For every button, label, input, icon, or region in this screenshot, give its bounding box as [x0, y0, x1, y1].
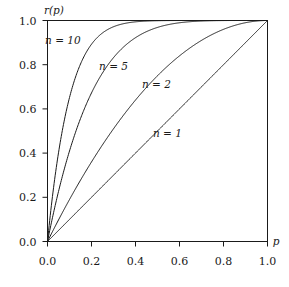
x-axis-label: p — [273, 235, 280, 247]
x-tick-label: 1.0 — [259, 255, 277, 268]
y-axis-label: r(p) — [44, 4, 64, 16]
curve-label-n-2: n = 2 — [142, 78, 171, 90]
x-tick-label: 0.8 — [215, 255, 233, 268]
curve-label-n-10: n = 10 — [45, 34, 81, 46]
y-tick-label: 0.0 — [19, 236, 37, 249]
y-tick-label: 1.0 — [19, 15, 37, 28]
x-tick-label: 0.6 — [171, 255, 189, 268]
curve-label-n-5: n = 5 — [99, 60, 128, 72]
curve-label-n-1: n = 1 — [153, 127, 182, 139]
y-tick-label: 0.6 — [19, 103, 37, 116]
y-tick-label: 0.8 — [19, 59, 37, 72]
y-tick-label: 0.4 — [19, 147, 37, 160]
chart-figure: 0.00.20.40.60.81.0 0.00.20.40.60.81.0 n … — [0, 0, 289, 287]
x-tick-label: 0.2 — [83, 255, 101, 268]
line-chart: 0.00.20.40.60.81.0 0.00.20.40.60.81.0 n … — [0, 0, 289, 287]
x-tick-label: 0.0 — [39, 255, 57, 268]
x-tick-label: 0.4 — [127, 255, 145, 268]
y-tick-label: 0.2 — [19, 191, 37, 204]
